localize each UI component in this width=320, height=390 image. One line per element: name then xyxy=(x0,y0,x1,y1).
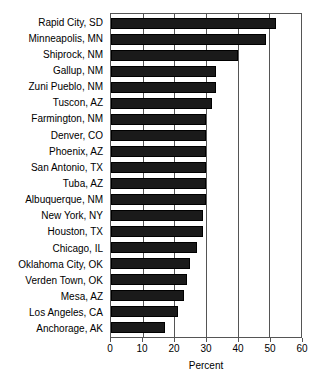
bar xyxy=(111,50,238,61)
tick-mark-20 xyxy=(174,338,175,342)
bar xyxy=(111,162,206,173)
bar-row xyxy=(111,178,301,189)
bar-row xyxy=(111,146,301,157)
bar xyxy=(111,242,197,253)
category-label: Tuscon, AZ xyxy=(0,97,107,108)
bar xyxy=(111,34,266,45)
bar xyxy=(111,322,165,333)
tick-label-10: 10 xyxy=(136,343,147,354)
bar-row xyxy=(111,210,301,221)
bar-chart-figure: Rapid City, SDMinneapolis, MNShiprock, N… xyxy=(0,0,320,390)
category-label: New York, NY xyxy=(0,210,107,221)
bar xyxy=(111,82,216,93)
category-label: Albuquerque, NM xyxy=(0,194,107,205)
bar-row xyxy=(111,82,301,93)
bar-row xyxy=(111,34,301,45)
bar-row xyxy=(111,274,301,285)
category-label: Verden Town, OK xyxy=(0,275,107,286)
tick-mark-0 xyxy=(110,338,111,342)
tick-mark-60 xyxy=(302,338,303,342)
x-axis-title: Percent xyxy=(110,360,302,371)
tick-label-60: 60 xyxy=(296,343,307,354)
category-axis: Rapid City, SDMinneapolis, MNShiprock, N… xyxy=(0,13,107,338)
tick-mark-30 xyxy=(206,338,207,342)
tick-label-20: 20 xyxy=(168,343,179,354)
bar xyxy=(111,274,187,285)
tick-label-40: 40 xyxy=(232,343,243,354)
category-label: Minneapolis, MN xyxy=(0,33,107,44)
category-label: Chicago, IL xyxy=(0,243,107,254)
plot-area xyxy=(110,13,302,338)
bar-row xyxy=(111,114,301,125)
bar xyxy=(111,290,184,301)
category-label: Anchorage, AK xyxy=(0,323,107,334)
tick-label-50: 50 xyxy=(264,343,275,354)
tick-mark-50 xyxy=(270,338,271,342)
bar-row xyxy=(111,242,301,253)
bar xyxy=(111,210,203,221)
bar xyxy=(111,114,206,125)
category-label: Phoenix, AZ xyxy=(0,146,107,157)
category-label: Gallup, NM xyxy=(0,65,107,76)
bar-row xyxy=(111,162,301,173)
category-label: Shiprock, NM xyxy=(0,49,107,60)
bar-row xyxy=(111,226,301,237)
bar-row xyxy=(111,18,301,29)
bar xyxy=(111,226,203,237)
bar-row xyxy=(111,306,301,317)
bar-series xyxy=(111,14,301,337)
bar-row xyxy=(111,66,301,77)
category-label: Los Angeles, CA xyxy=(0,307,107,318)
category-label: Zuni Pueblo, NM xyxy=(0,81,107,92)
category-label: Oklahoma City, OK xyxy=(0,259,107,270)
tick-mark-40 xyxy=(238,338,239,342)
bar xyxy=(111,66,216,77)
bar xyxy=(111,258,190,269)
category-label: Denver, CO xyxy=(0,130,107,141)
bar-row xyxy=(111,50,301,61)
tick-mark-10 xyxy=(142,338,143,342)
bar-row xyxy=(111,258,301,269)
x-axis-tick-labels: 0102030405060 xyxy=(110,343,302,357)
category-label: Houston, TX xyxy=(0,226,107,237)
bar-row xyxy=(111,290,301,301)
bar xyxy=(111,18,276,29)
bar xyxy=(111,146,206,157)
bar-row xyxy=(111,98,301,109)
bar xyxy=(111,194,206,205)
tick-label-0: 0 xyxy=(107,343,113,354)
bar xyxy=(111,306,178,317)
category-label: Rapid City, SD xyxy=(0,17,107,28)
tick-label-30: 30 xyxy=(200,343,211,354)
bar xyxy=(111,178,206,189)
bar-row xyxy=(111,130,301,141)
category-label: Farmington, NM xyxy=(0,113,107,124)
bar xyxy=(111,98,212,109)
bar-row xyxy=(111,322,301,333)
bar xyxy=(111,130,206,141)
category-label: Mesa, AZ xyxy=(0,291,107,302)
bar-row xyxy=(111,194,301,205)
category-label: San Antonio, TX xyxy=(0,162,107,173)
category-label: Tuba, AZ xyxy=(0,178,107,189)
